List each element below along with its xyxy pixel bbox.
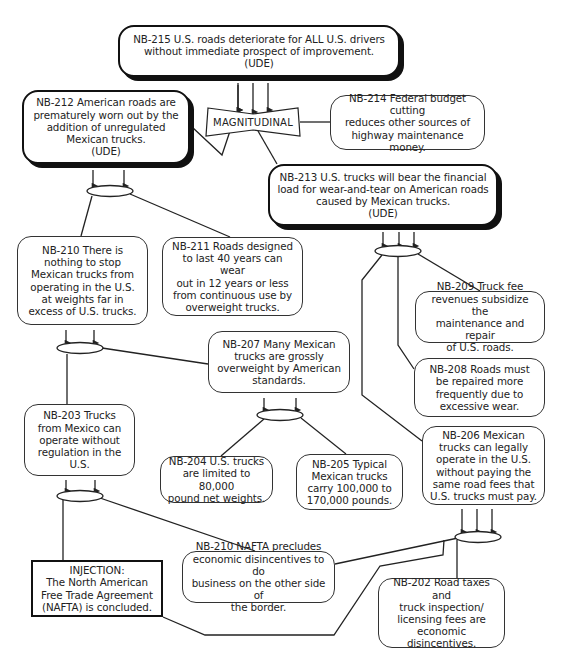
node-nb215: NB-215 U.S. roads deteriorate for ALL U.… [118,25,400,77]
node-nb204: NB-204 U.S. trucks are limited to 80,000… [160,456,273,503]
magnitudinal-label: MAGNITUDINAL [206,113,300,131]
and-connector-207 [257,410,303,421]
node-nb212: NB-212 American roads are prematurely wo… [22,90,190,164]
node-nb211: NB-211 Roads designed to last 40 years c… [162,237,303,316]
node-nb209: NB-209 Truck fee revenues subsidize the … [415,291,545,343]
node-injection: INJECTION: The North American Free Trade… [31,560,163,617]
and-connector-210 [57,343,103,354]
node-nb210-nafta: NB-210 NAFTA precludes economic disincen… [182,551,335,603]
and-connector-206 [455,532,501,543]
node-nb214: NB-214 Federal budget cutting reduces ot… [330,95,485,150]
node-nb203: NB-203 Trucks from Mexico can operate wi… [24,404,135,476]
node-nb206: NB-206 Mexican trucks can legally operat… [422,426,545,505]
node-nb208: NB-208 Roads must be repaired more frequ… [414,358,545,417]
node-nb205: NB-205 Typical Mexican trucks carry 100,… [296,454,403,510]
and-connector-212 [87,186,133,197]
node-nb207: NB-207 Many Mexican trucks are grossly o… [208,331,350,393]
node-nb210: NB-210 There is nothing to stop Mexican … [17,236,148,325]
node-nb213: NB-213 U.S. trucks will bear the financi… [268,164,498,226]
and-connector-213 [375,246,421,257]
node-nb202: NB-202 Road taxes and truck inspection/ … [378,578,505,648]
and-connector-203 [57,491,103,502]
